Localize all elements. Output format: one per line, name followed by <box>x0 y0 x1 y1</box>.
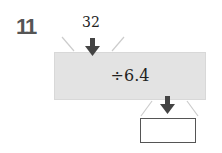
arrow-down-icon <box>85 38 101 58</box>
answer-box[interactable] <box>140 118 196 143</box>
operation-label: ÷6.4 <box>55 66 205 85</box>
input-value: 32 <box>82 14 100 30</box>
problem-number: 11 <box>16 14 35 40</box>
arrow-down-icon <box>160 96 176 116</box>
function-machine-box: ÷6.4 <box>54 52 206 100</box>
